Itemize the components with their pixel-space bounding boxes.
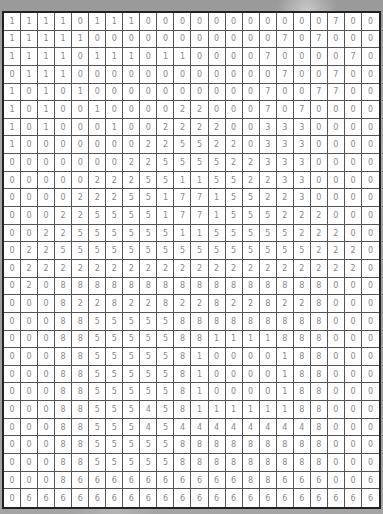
grid-cell[interactable]: 0 bbox=[191, 13, 208, 31]
grid-cell[interactable]: 0 bbox=[157, 101, 174, 119]
grid-cell[interactable]: 1 bbox=[209, 331, 226, 349]
grid-cell[interactable]: 0 bbox=[328, 119, 345, 137]
grid-cell[interactable]: 1 bbox=[4, 101, 21, 119]
grid-cell[interactable]: 0 bbox=[243, 366, 260, 384]
grid-cell[interactable]: 5 bbox=[226, 242, 243, 260]
grid-cell[interactable]: 0 bbox=[157, 84, 174, 102]
grid-cell[interactable]: 0 bbox=[362, 207, 379, 225]
grid-cell[interactable]: 0 bbox=[174, 31, 191, 49]
grid-cell[interactable]: 1 bbox=[277, 401, 294, 419]
grid-cell[interactable]: 2 bbox=[209, 260, 226, 278]
grid-cell[interactable]: 8 bbox=[294, 436, 311, 454]
grid-cell[interactable]: 3 bbox=[277, 172, 294, 190]
grid-cell[interactable]: 2 bbox=[140, 260, 157, 278]
grid-cell[interactable]: 0 bbox=[345, 13, 362, 31]
grid-cell[interactable]: 0 bbox=[328, 419, 345, 437]
grid-cell[interactable]: 1 bbox=[277, 366, 294, 384]
grid-cell[interactable]: 2 bbox=[294, 260, 311, 278]
grid-cell[interactable]: 8 bbox=[277, 436, 294, 454]
grid-cell[interactable]: 0 bbox=[21, 84, 38, 102]
grid-cell[interactable]: 5 bbox=[226, 172, 243, 190]
grid-cell[interactable]: 1 bbox=[123, 13, 140, 31]
grid-cell[interactable]: 2 bbox=[174, 101, 191, 119]
grid-cell[interactable]: 8 bbox=[72, 436, 89, 454]
grid-cell[interactable]: 0 bbox=[362, 260, 379, 278]
grid-cell[interactable]: 8 bbox=[72, 331, 89, 349]
grid-cell[interactable]: 0 bbox=[311, 66, 328, 84]
grid-cell[interactable]: 8 bbox=[72, 419, 89, 437]
grid-cell[interactable]: 0 bbox=[311, 13, 328, 31]
grid-cell[interactable]: 0 bbox=[362, 331, 379, 349]
grid-cell[interactable]: 0 bbox=[362, 48, 379, 66]
grid-cell[interactable]: 5 bbox=[157, 454, 174, 472]
grid-cell[interactable]: 3 bbox=[294, 119, 311, 137]
grid-cell[interactable]: 1 bbox=[209, 401, 226, 419]
grid-cell[interactable]: 0 bbox=[345, 189, 362, 207]
grid-cell[interactable]: 0 bbox=[345, 84, 362, 102]
grid-cell[interactable]: 1 bbox=[191, 172, 208, 190]
grid-cell[interactable]: 0 bbox=[243, 31, 260, 49]
grid-cell[interactable]: 0 bbox=[123, 31, 140, 49]
grid-cell[interactable]: 0 bbox=[328, 472, 345, 490]
grid-cell[interactable]: 2 bbox=[311, 242, 328, 260]
grid-cell[interactable]: 6 bbox=[38, 489, 55, 507]
grid-cell[interactable]: 0 bbox=[21, 119, 38, 137]
grid-cell[interactable]: 0 bbox=[4, 295, 21, 313]
grid-cell[interactable]: 0 bbox=[328, 48, 345, 66]
grid-cell[interactable]: 0 bbox=[38, 172, 55, 190]
grid-cell[interactable]: 2 bbox=[140, 154, 157, 172]
grid-cell[interactable]: 5 bbox=[277, 225, 294, 243]
grid-cell[interactable]: 7 bbox=[260, 101, 277, 119]
grid-cell[interactable]: 0 bbox=[4, 313, 21, 331]
grid-cell[interactable]: 5 bbox=[89, 366, 106, 384]
grid-cell[interactable]: 0 bbox=[345, 401, 362, 419]
grid-cell[interactable]: 5 bbox=[294, 242, 311, 260]
grid-cell[interactable]: 8 bbox=[294, 401, 311, 419]
grid-cell[interactable]: 8 bbox=[311, 331, 328, 349]
grid-cell[interactable]: 0 bbox=[345, 66, 362, 84]
grid-cell[interactable]: 8 bbox=[243, 313, 260, 331]
grid-cell[interactable]: 2 bbox=[311, 207, 328, 225]
grid-cell[interactable]: 0 bbox=[345, 348, 362, 366]
grid-cell[interactable]: 1 bbox=[4, 31, 21, 49]
grid-cell[interactable]: 0 bbox=[345, 154, 362, 172]
grid-cell[interactable]: 0 bbox=[243, 66, 260, 84]
grid-cell[interactable]: 4 bbox=[191, 419, 208, 437]
grid-cell[interactable]: 7 bbox=[260, 84, 277, 102]
grid-cell[interactable]: 8 bbox=[209, 278, 226, 296]
grid-cell[interactable]: 2 bbox=[123, 154, 140, 172]
grid-cell[interactable]: 5 bbox=[89, 383, 106, 401]
grid-cell[interactable]: 2 bbox=[345, 260, 362, 278]
grid-cell[interactable]: 0 bbox=[345, 225, 362, 243]
grid-cell[interactable]: 6 bbox=[311, 472, 328, 490]
grid-cell[interactable]: 1 bbox=[38, 13, 55, 31]
grid-cell[interactable]: 8 bbox=[106, 295, 123, 313]
grid-cell[interactable]: 0 bbox=[4, 242, 21, 260]
grid-cell[interactable]: 1 bbox=[38, 84, 55, 102]
grid-cell[interactable]: 0 bbox=[345, 119, 362, 137]
grid-cell[interactable]: 0 bbox=[328, 454, 345, 472]
grid-cell[interactable]: 2 bbox=[55, 207, 72, 225]
grid-cell[interactable]: 5 bbox=[89, 331, 106, 349]
grid-cell[interactable]: 0 bbox=[345, 207, 362, 225]
grid-cell[interactable]: 2 bbox=[328, 260, 345, 278]
grid-cell[interactable]: 0 bbox=[277, 13, 294, 31]
grid-cell[interactable]: 2 bbox=[55, 260, 72, 278]
grid-cell[interactable]: 8 bbox=[311, 454, 328, 472]
grid-cell[interactable]: 0 bbox=[89, 84, 106, 102]
grid-cell[interactable]: 8 bbox=[226, 436, 243, 454]
grid-cell[interactable]: 8 bbox=[55, 366, 72, 384]
grid-cell[interactable]: 5 bbox=[106, 401, 123, 419]
grid-cell[interactable]: 2 bbox=[191, 260, 208, 278]
grid-cell[interactable]: 8 bbox=[72, 454, 89, 472]
grid-cell[interactable]: 4 bbox=[174, 419, 191, 437]
grid-cell[interactable]: 5 bbox=[174, 136, 191, 154]
grid-cell[interactable]: 2 bbox=[21, 242, 38, 260]
grid-cell[interactable]: 1 bbox=[157, 207, 174, 225]
grid-cell[interactable]: 5 bbox=[123, 401, 140, 419]
grid-cell[interactable]: 2 bbox=[277, 207, 294, 225]
grid-cell[interactable]: 5 bbox=[140, 366, 157, 384]
grid-cell[interactable]: 0 bbox=[328, 401, 345, 419]
grid-cell[interactable]: 0 bbox=[4, 383, 21, 401]
grid-cell[interactable]: 0 bbox=[328, 295, 345, 313]
